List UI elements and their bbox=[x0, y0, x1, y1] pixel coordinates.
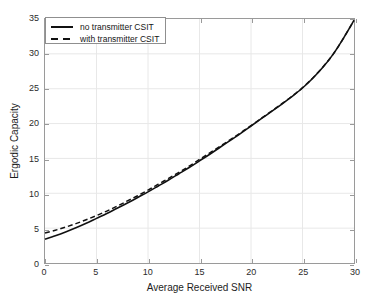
x-tick-label: 20 bbox=[231, 267, 271, 277]
x-tick-label: 5 bbox=[76, 267, 116, 277]
y-tick-mark bbox=[350, 124, 354, 125]
x-tick-mark bbox=[252, 19, 253, 23]
y-tick-mark bbox=[350, 195, 354, 196]
data-series-layer bbox=[45, 19, 354, 263]
x-tick-mark bbox=[97, 259, 98, 263]
x-tick-mark bbox=[356, 259, 357, 263]
legend-entry-no-transmitter-csit: no transmitter CSIT bbox=[49, 21, 162, 32]
y-tick-mark bbox=[45, 230, 49, 231]
y-tick-mark bbox=[350, 230, 354, 231]
y-tick-label: 15 bbox=[0, 154, 39, 164]
y-tick-mark bbox=[45, 195, 49, 196]
y-tick-mark bbox=[350, 160, 354, 161]
x-tick-mark bbox=[252, 259, 253, 263]
x-tick-label: 30 bbox=[335, 267, 375, 277]
x-tick-label: 15 bbox=[180, 267, 220, 277]
legend-label: with transmitter CSIT bbox=[80, 34, 159, 44]
x-tick-label: 0 bbox=[24, 267, 64, 277]
legend-label: no transmitter CSIT bbox=[80, 22, 154, 32]
y-tick-mark bbox=[350, 54, 354, 55]
series-line bbox=[45, 20, 354, 239]
x-tick-label: 25 bbox=[283, 267, 323, 277]
y-tick-label: 5 bbox=[0, 224, 39, 234]
legend-solid-line-icon bbox=[49, 22, 75, 32]
x-tick-mark bbox=[304, 19, 305, 23]
y-tick-mark bbox=[45, 89, 49, 90]
series-line bbox=[45, 20, 354, 233]
y-tick-mark bbox=[45, 54, 49, 55]
legend: no transmitter CSIT with transmitter CSI… bbox=[45, 17, 166, 44]
chart-figure: 05101520253035 Ergodic Capacity 05101520… bbox=[0, 0, 375, 301]
legend-entry-with-transmitter-csit: with transmitter CSIT bbox=[49, 33, 162, 44]
x-tick-mark bbox=[45, 259, 46, 263]
y-tick-mark bbox=[45, 124, 49, 125]
y-tick-label: 35 bbox=[0, 13, 39, 23]
x-tick-mark bbox=[356, 19, 357, 23]
x-tick-mark bbox=[304, 259, 305, 263]
y-tick-label: 20 bbox=[0, 118, 39, 128]
y-tick-mark bbox=[350, 265, 354, 266]
y-tick-mark bbox=[350, 19, 354, 20]
y-tick-mark bbox=[45, 160, 49, 161]
x-tick-label: 10 bbox=[128, 267, 168, 277]
x-axis-title: Average Received SNR bbox=[44, 282, 355, 293]
y-tick-mark bbox=[350, 89, 354, 90]
y-tick-label: 30 bbox=[0, 48, 39, 58]
y-tick-mark bbox=[45, 265, 49, 266]
y-axis-title: Ergodic Capacity bbox=[9, 81, 20, 201]
y-tick-label: 10 bbox=[0, 189, 39, 199]
legend-dashed-line-icon bbox=[49, 34, 75, 44]
x-tick-mark bbox=[149, 259, 150, 263]
x-tick-mark bbox=[201, 19, 202, 23]
plot-area bbox=[44, 18, 355, 264]
y-tick-label: 25 bbox=[0, 83, 39, 93]
x-tick-mark bbox=[201, 259, 202, 263]
